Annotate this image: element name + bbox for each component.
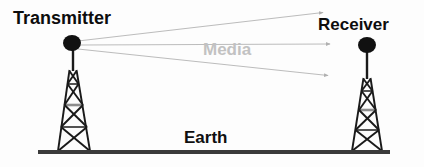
receiver-label: Receiver <box>318 15 389 35</box>
transmitter-antenna-dot <box>63 35 81 51</box>
transmitter-brace-4b <box>58 127 87 151</box>
earth-label: Earth <box>184 128 227 148</box>
signal-ray-upper <box>78 13 323 42</box>
receiver-antenna-dot <box>358 37 376 53</box>
transmitter-tower <box>58 47 90 151</box>
receiver-leg-left <box>352 78 364 151</box>
receiver-tower <box>352 50 382 151</box>
transmitter-label: Transmitter <box>13 8 111 29</box>
receiver-brace-4a <box>356 130 383 151</box>
media-label: Media <box>203 40 251 60</box>
receiver-brace-4b <box>352 130 379 151</box>
